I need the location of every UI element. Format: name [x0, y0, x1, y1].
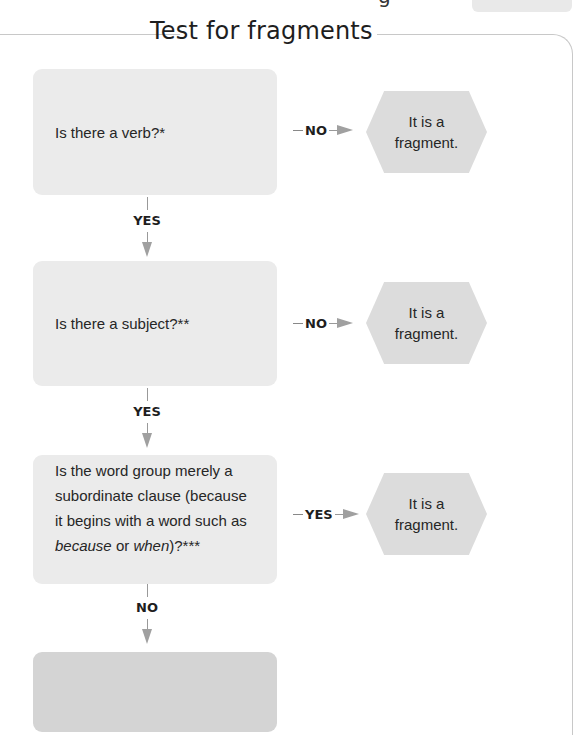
outcome-line-1: It is a — [395, 302, 458, 323]
connector-line — [335, 514, 343, 515]
connector-label: YES — [303, 507, 335, 522]
connector-line — [147, 619, 148, 629]
question-text: Is there a verb?* — [55, 120, 165, 145]
arrow-right-icon — [343, 509, 359, 519]
connector-no-3: NO — [122, 584, 172, 644]
connector-line — [147, 584, 148, 597]
connector-line — [147, 197, 148, 210]
final-result-box — [33, 652, 277, 732]
connector-no-1: NO — [293, 120, 353, 140]
question-box-subject: Is there a subject?** — [33, 261, 277, 386]
connector-no-2: NO — [293, 313, 353, 333]
top-tab-decoration — [472, 0, 572, 12]
diagram-title: Test for fragments — [150, 17, 355, 45]
connector-line — [293, 514, 303, 515]
connector-yes-1: YES — [122, 197, 172, 257]
connector-label: NO — [136, 599, 158, 617]
outcome-line-1: It is a — [395, 111, 458, 132]
arrow-down-icon — [142, 433, 152, 448]
outcome-line-2: fragment. — [395, 132, 458, 153]
question-text: Is there a subject?** — [55, 311, 189, 336]
question-box-verb: Is there a verb?* — [33, 69, 277, 195]
outcome-line-2: fragment. — [395, 514, 458, 535]
arrow-down-icon — [142, 629, 152, 644]
connector-yes-3: YES — [293, 504, 359, 524]
connector-line — [329, 130, 337, 131]
outcome-line-1: It is a — [395, 493, 458, 514]
connector-line — [293, 130, 303, 131]
connector-line — [329, 323, 337, 324]
question-box-subordinate-clause: Is the word group merely a subordinate c… — [33, 455, 277, 584]
outcome-hexagon-1: It is a fragment. — [366, 91, 487, 173]
arrow-right-icon — [337, 318, 353, 328]
arrow-down-icon — [142, 242, 152, 257]
outcome-hexagon-3: It is a fragment. — [366, 473, 487, 555]
question-text: Is the word group merely a subordinate c… — [55, 458, 255, 558]
outcome-line-2: fragment. — [395, 323, 458, 344]
cut-off-heading-glyph: g — [378, 0, 391, 4]
arrow-right-icon — [337, 125, 353, 135]
connector-label: YES — [133, 403, 161, 421]
connector-label: NO — [303, 316, 329, 331]
outcome-hexagon-2: It is a fragment. — [366, 282, 487, 364]
connector-yes-2: YES — [122, 388, 172, 448]
connector-label: NO — [303, 123, 329, 138]
connector-line — [147, 423, 148, 433]
connector-label: YES — [133, 212, 161, 230]
connector-line — [147, 388, 148, 401]
connector-line — [147, 232, 148, 242]
connector-line — [293, 323, 303, 324]
